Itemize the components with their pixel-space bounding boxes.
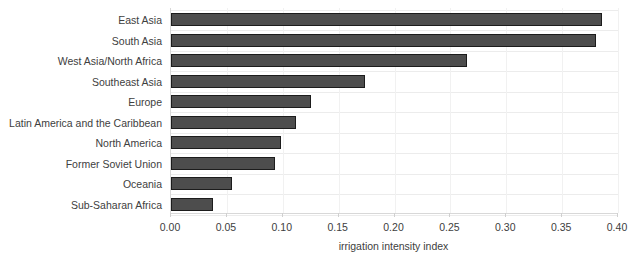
bar xyxy=(171,34,596,47)
bar xyxy=(171,136,281,149)
bar xyxy=(171,95,311,108)
x-axis-title: irrigation intensity index xyxy=(170,240,617,252)
category-label: Latin America and the Caribbean xyxy=(0,117,162,129)
x-tick-mark xyxy=(505,213,506,217)
bar xyxy=(171,198,213,211)
bar xyxy=(171,54,467,67)
x-tick-mark xyxy=(394,213,395,217)
x-tick-label: 0.25 xyxy=(419,221,479,233)
x-tick-mark xyxy=(226,213,227,217)
x-tick-mark xyxy=(617,213,618,217)
x-tick-mark xyxy=(561,213,562,217)
bar xyxy=(171,177,232,190)
bar xyxy=(171,116,296,129)
plot-area xyxy=(170,8,618,213)
x-tick-label: 0.00 xyxy=(140,221,200,233)
bar xyxy=(171,75,365,88)
x-tick-label: 0.30 xyxy=(475,221,535,233)
bar xyxy=(171,13,602,26)
category-label: West Asia/North Africa xyxy=(0,55,162,67)
x-tick-label: 0.35 xyxy=(531,221,591,233)
irrigation-intensity-bar-chart: East AsiaSouth AsiaWest Asia/North Afric… xyxy=(0,0,639,264)
category-label: South Asia xyxy=(0,35,162,47)
category-axis: East AsiaSouth AsiaWest Asia/North Afric… xyxy=(0,8,166,213)
category-label: Oceania xyxy=(0,178,162,190)
x-tick-label: 0.05 xyxy=(196,221,256,233)
category-label: North America xyxy=(0,137,162,149)
category-label: East Asia xyxy=(0,14,162,26)
x-tick-mark xyxy=(449,213,450,217)
horizontal-gridline xyxy=(171,215,618,216)
category-label: Europe xyxy=(0,96,162,108)
category-label: Former Soviet Union xyxy=(0,158,162,170)
x-tick-label: 0.40 xyxy=(587,221,639,233)
category-label: Southeast Asia xyxy=(0,76,162,88)
x-tick-mark xyxy=(282,213,283,217)
x-tick-mark xyxy=(338,213,339,217)
x-tick-mark xyxy=(170,213,171,217)
x-tick-label: 0.10 xyxy=(252,221,312,233)
vertical-gridline xyxy=(618,8,619,213)
x-tick-label: 0.20 xyxy=(364,221,424,233)
x-tick-label: 0.15 xyxy=(308,221,368,233)
category-label: Sub-Saharan Africa xyxy=(0,199,162,211)
bar xyxy=(171,157,275,170)
